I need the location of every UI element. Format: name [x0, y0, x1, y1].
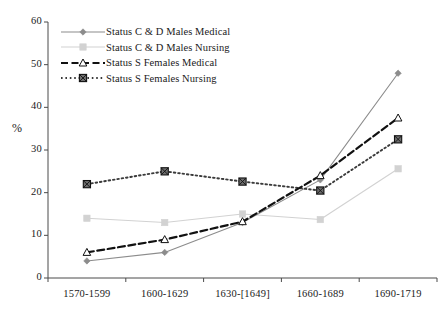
legend-item: Status C & D Males Medical [60, 24, 230, 40]
legend-label: Status S Females Medical [106, 57, 217, 68]
legend-label: Status S Females Nursing [106, 73, 217, 84]
legend-marker-square-icon [60, 40, 106, 54]
legend-item: Status S Females Medical [60, 55, 230, 71]
legend-marker-diamond-icon [60, 25, 106, 39]
series-line [84, 70, 402, 264]
legend-marker-triangle-open-icon [60, 56, 106, 70]
series-line [83, 136, 401, 194]
legend-label: Status C & D Males Nursing [106, 42, 230, 53]
legend-label: Status C & D Males Medical [106, 26, 230, 37]
legend-item: Status S Females Nursing [60, 71, 230, 87]
chart-container: % 0102030405060 1570-15991600-16291630-[… [0, 0, 447, 315]
chart-legend: Status C & D Males MedicalStatus C & D M… [60, 24, 230, 86]
legend-item: Status C & D Males Nursing [60, 40, 230, 56]
legend-marker-square-hatched-icon [60, 71, 106, 85]
